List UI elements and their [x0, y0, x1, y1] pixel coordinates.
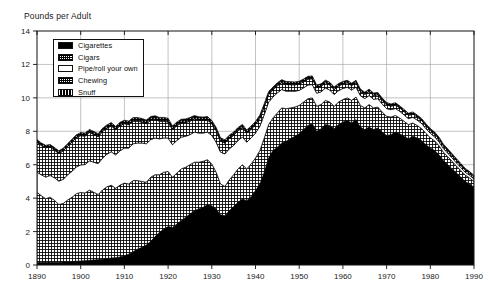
- svg-text:1910: 1910: [116, 272, 134, 281]
- svg-text:1990: 1990: [465, 272, 483, 281]
- legend-swatch-pipe-icon: [58, 65, 73, 72]
- legend-item-pipe: Pipe/roll your own: [54, 63, 143, 75]
- legend-label-chewing: Chewing: [78, 76, 107, 85]
- chart-root: Pounds per Adult: [0, 0, 494, 290]
- svg-text:12: 12: [21, 60, 30, 69]
- legend-label-cigars: Cigars: [78, 53, 100, 62]
- svg-text:2: 2: [26, 228, 31, 237]
- svg-text:8: 8: [26, 127, 31, 136]
- legend-swatch-snuff-icon: [58, 89, 73, 96]
- chart-legend: Cigarettes Cigars Pipe/roll your own Che…: [53, 39, 144, 97]
- legend-label-pipe: Pipe/roll your own: [78, 64, 138, 73]
- svg-text:1970: 1970: [378, 272, 396, 281]
- svg-text:1950: 1950: [290, 272, 308, 281]
- legend-item-cigars: Cigars: [54, 52, 143, 64]
- legend-item-cigarettes: Cigarettes: [54, 40, 143, 52]
- legend-swatch-cigarettes-icon: [58, 42, 73, 49]
- svg-text:1960: 1960: [334, 272, 352, 281]
- svg-text:1890: 1890: [28, 272, 46, 281]
- legend-swatch-cigars-icon: [58, 54, 73, 61]
- svg-text:6: 6: [26, 161, 31, 170]
- legend-swatch-chewing-icon: [58, 77, 73, 84]
- legend-label-snuff: Snuff: [78, 88, 95, 97]
- svg-text:10: 10: [21, 94, 30, 103]
- svg-text:14: 14: [21, 27, 30, 36]
- legend-item-snuff: Snuff: [54, 86, 143, 98]
- legend-item-chewing: Chewing: [54, 75, 143, 87]
- svg-text:4: 4: [26, 194, 31, 203]
- svg-text:0: 0: [26, 261, 31, 270]
- svg-text:1920: 1920: [159, 272, 177, 281]
- svg-text:1900: 1900: [72, 272, 90, 281]
- svg-text:1940: 1940: [247, 272, 265, 281]
- legend-label-cigarettes: Cigarettes: [78, 41, 112, 50]
- svg-text:1980: 1980: [421, 272, 439, 281]
- svg-text:1930: 1930: [203, 272, 221, 281]
